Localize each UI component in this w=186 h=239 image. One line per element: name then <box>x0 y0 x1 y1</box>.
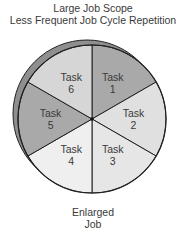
task-label-5: Task <box>40 107 62 119</box>
task-number-4: 4 <box>68 155 74 167</box>
task-label-6: Task <box>60 71 82 83</box>
caption-line1: Enlarged <box>0 206 186 218</box>
task-label-4: Task <box>60 143 82 155</box>
wheel-hub <box>90 117 94 121</box>
task-label-3: Task <box>102 143 124 155</box>
caption-line2: Job <box>0 218 186 230</box>
task-label-2: Task <box>123 107 145 119</box>
task-number-1: 1 <box>110 83 116 95</box>
task-number-5: 5 <box>48 119 54 131</box>
job-wheel-diagram: Task1Task2Task3Task4Task5Task6 <box>0 0 186 239</box>
task-number-6: 6 <box>68 83 74 95</box>
task-number-3: 3 <box>110 155 116 167</box>
task-label-1: Task <box>102 71 124 83</box>
task-number-2: 2 <box>131 119 137 131</box>
